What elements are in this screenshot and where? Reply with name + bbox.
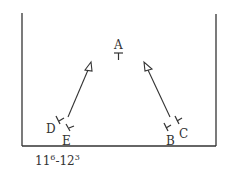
position-a-marker [114,53,123,60]
right-arrow-head-icon [144,62,152,71]
right-arrow [144,62,170,117]
figure-caption: 116-123 [35,153,80,168]
position-c-marker [175,116,182,124]
court-diagram: A D E B C 116-123 [0,0,233,174]
label-b: B [166,134,175,148]
position-d-marker [56,116,64,124]
left-arrow [68,62,92,117]
label-c: C [179,127,188,141]
position-b-marker [164,123,171,131]
label-a: A [113,38,123,52]
label-e: E [62,134,71,148]
position-e-marker [66,124,74,131]
left-arrow-head-icon [85,62,92,71]
label-d: D [46,122,56,136]
